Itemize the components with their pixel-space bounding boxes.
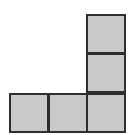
square-cell-3	[9, 93, 49, 133]
square-cell-1	[86, 14, 126, 54]
l-shape-figure	[0, 0, 137, 135]
square-cell-2	[86, 53, 126, 93]
square-cell-5	[86, 93, 126, 133]
square-cell-4	[48, 93, 88, 133]
